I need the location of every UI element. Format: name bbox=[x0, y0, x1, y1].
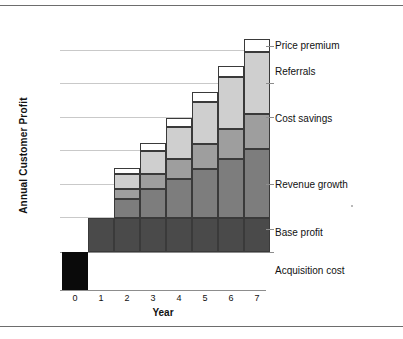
bar-year-0[interactable] bbox=[62, 252, 88, 290]
segment-base-profit[interactable] bbox=[218, 218, 244, 252]
segment-revenue-growth[interactable] bbox=[140, 189, 166, 218]
leader-revenue-growth bbox=[266, 184, 274, 185]
segment-cost-savings[interactable] bbox=[192, 144, 218, 169]
x-tick-5: 5 bbox=[195, 293, 215, 303]
x-tick-6: 6 bbox=[221, 293, 241, 303]
leader-cost-savings bbox=[266, 117, 274, 118]
chart-figure: Annual Customer Profit 0 1 2 3 4 5 6 7 Y… bbox=[0, 0, 403, 339]
segment-base-profit[interactable] bbox=[192, 218, 218, 252]
plot-area: Annual Customer Profit 0 1 2 3 4 5 6 7 Y… bbox=[0, 0, 403, 339]
segment-referrals[interactable] bbox=[166, 127, 192, 159]
x-axis-baseline bbox=[60, 252, 266, 253]
segment-base-profit[interactable] bbox=[88, 218, 114, 252]
segment-revenue-growth[interactable] bbox=[192, 169, 218, 218]
segment-revenue-growth[interactable] bbox=[166, 179, 192, 218]
label-acquisition-cost: Acquisition cost bbox=[275, 265, 344, 276]
segment-cost-savings[interactable] bbox=[114, 189, 140, 199]
segment-cost-savings[interactable] bbox=[218, 129, 244, 159]
bar-year-1[interactable] bbox=[88, 218, 114, 252]
label-revenue-growth: Revenue growth bbox=[275, 179, 348, 190]
leader-referrals bbox=[266, 83, 274, 84]
label-base-profit: Base profit bbox=[275, 227, 323, 238]
label-referrals: Referrals bbox=[275, 66, 316, 77]
segment-referrals[interactable] bbox=[140, 151, 166, 174]
x-axis-title: Year bbox=[103, 307, 223, 318]
label-cost-savings: Cost savings bbox=[275, 113, 332, 124]
scan-speck bbox=[351, 205, 353, 207]
segment-revenue-growth[interactable] bbox=[218, 159, 244, 218]
x-tick-1: 1 bbox=[91, 293, 111, 303]
segment-base-profit[interactable] bbox=[244, 218, 270, 252]
x-axis-tick-rule bbox=[60, 290, 266, 291]
gridline-6 bbox=[60, 50, 266, 51]
x-tick-0: 0 bbox=[65, 293, 85, 303]
segment-referrals[interactable] bbox=[114, 174, 140, 189]
segment-price-premium[interactable] bbox=[218, 66, 244, 77]
segment-price-premium[interactable] bbox=[140, 143, 166, 151]
segment-referrals[interactable] bbox=[192, 102, 218, 144]
leader-acquisition-cost bbox=[266, 252, 274, 253]
segment-base-profit[interactable] bbox=[114, 218, 140, 252]
x-tick-3: 3 bbox=[143, 293, 163, 303]
segment-cost-savings[interactable] bbox=[166, 159, 192, 179]
x-tick-4: 4 bbox=[169, 293, 189, 303]
segment-cost-savings[interactable] bbox=[140, 174, 166, 189]
segment-base-profit[interactable] bbox=[166, 218, 192, 252]
x-tick-2: 2 bbox=[117, 293, 137, 303]
y-axis-title: Annual Customer Profit bbox=[18, 71, 29, 241]
segment-base-profit[interactable] bbox=[140, 218, 166, 252]
segment-cost-savings[interactable] bbox=[244, 114, 270, 149]
segment-price-premium[interactable] bbox=[192, 92, 218, 102]
leader-price-premium bbox=[266, 46, 274, 47]
segment-referrals[interactable] bbox=[218, 77, 244, 129]
segment-acquisition-cost[interactable] bbox=[62, 252, 88, 290]
segment-revenue-growth[interactable] bbox=[114, 199, 140, 218]
segment-price-premium[interactable] bbox=[114, 168, 140, 174]
label-price-premium: Price premium bbox=[275, 40, 339, 51]
leader-base-profit bbox=[266, 229, 274, 230]
segment-price-premium[interactable] bbox=[166, 118, 192, 127]
x-tick-7: 7 bbox=[247, 293, 267, 303]
